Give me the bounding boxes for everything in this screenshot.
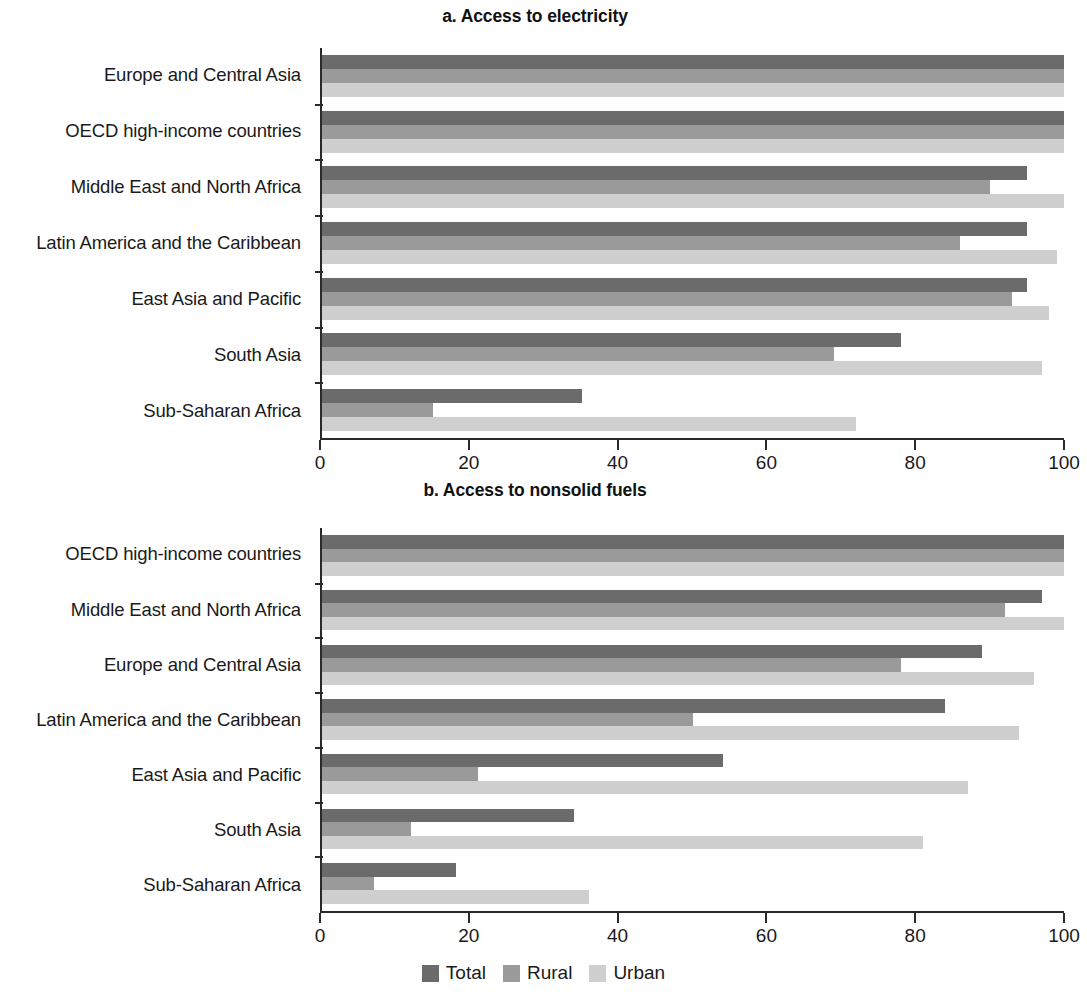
bar-urban (322, 890, 589, 904)
chart-a-x-axis-line (320, 438, 1064, 440)
bar-rural (322, 822, 411, 836)
category-label: Middle East and North Africa (8, 599, 301, 621)
y-axis-tick (315, 327, 323, 329)
legend-item-total: Total (422, 962, 486, 984)
y-axis-tick (315, 637, 323, 639)
category-label: Latin America and the Caribbean (8, 232, 301, 254)
bar-group (322, 583, 1064, 638)
bar-urban (322, 417, 856, 431)
x-axis-tick-label: 20 (458, 452, 479, 474)
category-label: East Asia and Pacific (8, 288, 301, 310)
x-axis-tick (617, 913, 619, 923)
legend-swatch-urban (589, 965, 606, 982)
bar-urban (322, 306, 1049, 320)
category-label: South Asia (8, 819, 301, 841)
bar-group (322, 747, 1064, 802)
x-axis-tick (468, 913, 470, 923)
y-axis-tick (315, 104, 323, 106)
category-label: Sub-Saharan Africa (8, 400, 301, 422)
bar-group (322, 802, 1064, 857)
x-axis-tick (914, 440, 916, 450)
legend-label-urban: Urban (613, 962, 665, 984)
x-axis-tick (765, 440, 767, 450)
category-label: OECD high-income countries (8, 120, 301, 142)
bar-group (322, 692, 1064, 747)
category-label: Sub-Saharan Africa (8, 874, 301, 896)
bar-urban (322, 361, 1042, 375)
bar-urban (322, 726, 1019, 740)
category-label: Latin America and the Caribbean (8, 709, 301, 731)
bar-group (322, 48, 1064, 104)
bar-urban (322, 83, 1064, 97)
x-axis-tick (765, 913, 767, 923)
bar-rural (322, 767, 478, 781)
chart-b-plot-area (320, 528, 1064, 913)
y-axis-tick (315, 271, 323, 273)
chart-b-bar-groups (322, 528, 1064, 911)
bar-group (322, 215, 1064, 271)
x-axis-tick-label: 60 (756, 452, 777, 474)
x-axis-tick (914, 913, 916, 923)
bar-total (322, 111, 1064, 125)
bar-rural (322, 877, 374, 891)
bar-group (322, 528, 1064, 583)
x-axis-tick-label: 0 (315, 452, 326, 474)
bar-total (322, 166, 1027, 180)
bar-group (322, 271, 1064, 327)
y-axis-tick (315, 382, 323, 384)
bar-total (322, 699, 945, 713)
x-axis-tick-label: 40 (607, 925, 628, 947)
bar-total (322, 590, 1042, 604)
y-axis-tick (315, 802, 323, 804)
chart-a-category-labels: Europe and Central AsiaOECD high-income … (8, 48, 313, 440)
bar-total (322, 55, 1064, 69)
y-axis-tick (315, 583, 323, 585)
bar-rural (322, 403, 433, 417)
chart-b-x-axis-line (320, 911, 1064, 913)
bar-urban (322, 672, 1034, 686)
x-axis-tick-label: 80 (905, 452, 926, 474)
bar-rural (322, 69, 1064, 83)
y-axis-tick (315, 856, 323, 858)
chart-a-title: a. Access to electricity (0, 6, 1070, 27)
x-axis-tick (1063, 913, 1065, 923)
category-label: Middle East and North Africa (8, 176, 301, 198)
x-axis-tick-label: 100 (1048, 452, 1080, 474)
legend-label-total: Total (446, 962, 486, 984)
bar-urban (322, 139, 1064, 153)
bar-total (322, 333, 901, 347)
bar-urban (322, 562, 1064, 576)
y-axis-tick (315, 747, 323, 749)
x-axis-tick (1063, 440, 1065, 450)
category-label: East Asia and Pacific (8, 764, 301, 786)
bar-group (322, 637, 1064, 692)
figure-access-to-energy: a. Access to electricity Europe and Cent… (0, 0, 1087, 998)
bar-rural (322, 658, 901, 672)
bar-rural (322, 713, 693, 727)
figure-legend: TotalRuralUrban (0, 962, 1087, 984)
legend-swatch-total (422, 965, 439, 982)
bar-total (322, 535, 1064, 549)
legend-item-rural: Rural (503, 962, 572, 984)
bar-rural (322, 125, 1064, 139)
category-label: OECD high-income countries (8, 543, 301, 565)
y-axis-tick (315, 215, 323, 217)
chart-a-bar-groups (322, 48, 1064, 438)
x-axis-tick (468, 440, 470, 450)
bar-rural (322, 292, 1012, 306)
chart-panel-a: a. Access to electricity Europe and Cent… (0, 0, 1087, 478)
chart-b-category-labels: OECD high-income countriesMiddle East an… (8, 528, 313, 913)
legend-item-urban: Urban (589, 962, 665, 984)
bar-group (322, 104, 1064, 160)
bar-urban (322, 250, 1057, 264)
category-label: Europe and Central Asia (8, 64, 301, 86)
bar-total (322, 754, 723, 768)
chart-b-title: b. Access to nonsolid fuels (0, 480, 1070, 501)
x-axis-tick-label: 60 (756, 925, 777, 947)
bar-total (322, 809, 574, 823)
bar-urban (322, 781, 968, 795)
bar-urban (322, 617, 1064, 631)
bar-total (322, 863, 456, 877)
chart-panel-b: b. Access to nonsolid fuels OECD high-in… (0, 478, 1087, 948)
category-label: Europe and Central Asia (8, 654, 301, 676)
